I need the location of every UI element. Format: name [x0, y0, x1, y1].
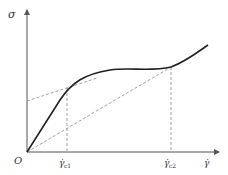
y-axis-label: σ — [8, 8, 16, 21]
marker1-label: γ̇ c1 — [59, 158, 71, 169]
svg-text:c1: c1 — [64, 162, 71, 169]
origin-label: O — [14, 155, 22, 166]
x-axis-label: γ̇ — [204, 158, 210, 168]
flow-curve-diagram: σ O γ̇ c1 γ̇ c2 γ̇ — [0, 0, 228, 175]
secant-line-c2 — [27, 67, 171, 152]
marker2-label: γ̇ c2 — [164, 158, 176, 169]
svg-text:c2: c2 — [169, 162, 176, 169]
